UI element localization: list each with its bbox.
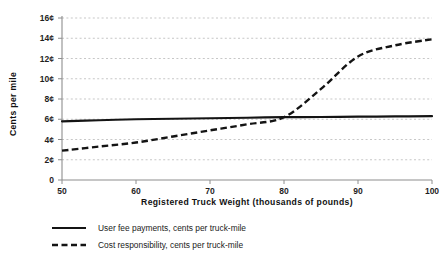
line-chart: 02¢4¢6¢8¢10¢12¢14¢16¢ 5060708090100 Cent…	[0, 0, 442, 259]
legend-item[interactable]: User fee payments, cents per truck-mile	[52, 223, 246, 233]
y-tick-label: 0	[49, 175, 54, 185]
x-tick-label: 70	[205, 186, 215, 196]
x-tick-label: 90	[353, 186, 363, 196]
chart-figure: 02¢4¢6¢8¢10¢12¢14¢16¢ 5060708090100 Cent…	[0, 0, 442, 259]
axes-group	[58, 16, 432, 184]
y-tick-label: 10¢	[40, 74, 54, 84]
y-tick-label: 2¢	[45, 155, 55, 165]
x-tick-label: 100	[425, 186, 439, 196]
chart-legend: User fee payments, cents per truck-mileC…	[52, 223, 246, 250]
x-axis-title: Registered Truck Weight (thousands of po…	[141, 197, 353, 207]
x-tick-label: 50	[57, 186, 67, 196]
y-tick-label: 6¢	[45, 114, 55, 124]
y-tick-label: 16¢	[40, 13, 54, 23]
x-tick-labels-group: 5060708090100	[57, 186, 439, 196]
gridlines-group	[62, 18, 432, 160]
legend-label: User fee payments, cents per truck-mile	[98, 223, 246, 233]
series-line-2	[62, 39, 432, 150]
legend-item[interactable]: Cost responsibility, cents per truck-mil…	[52, 240, 243, 250]
y-tick-label: 4¢	[45, 135, 55, 145]
series-line-1	[62, 116, 432, 121]
y-tick-labels-group: 02¢4¢6¢8¢10¢12¢14¢16¢	[40, 13, 54, 185]
x-tick-label: 60	[131, 186, 141, 196]
y-tick-label: 12¢	[40, 54, 54, 64]
y-tick-label: 8¢	[45, 94, 55, 104]
y-axis-title: Cents per mile	[8, 72, 18, 136]
x-tick-label: 80	[279, 186, 289, 196]
legend-label: Cost responsibility, cents per truck-mil…	[98, 240, 243, 250]
y-tick-label: 14¢	[40, 33, 54, 43]
data-series-group	[62, 39, 432, 150]
